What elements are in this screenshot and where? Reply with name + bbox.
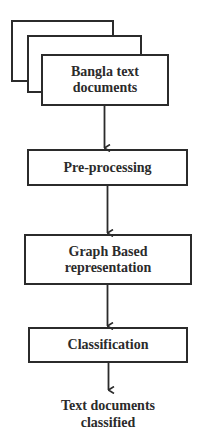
flow-arrows <box>0 0 200 447</box>
